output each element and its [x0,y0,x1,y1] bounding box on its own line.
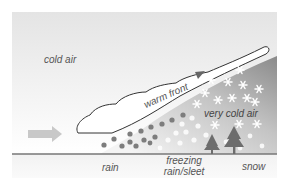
dot-icon [180,112,185,117]
freezing-label-line2: rain/sleet [161,166,207,177]
diagram-canvas [0,0,291,186]
freezing-label-line1: freezing [161,155,207,166]
dot-icon [133,143,138,148]
dot-icon [169,117,174,122]
dot-icon [148,141,153,146]
dot-icon [101,142,106,147]
ground-band [12,154,277,178]
dot-icon [138,128,143,133]
warm-front-diagram: cold air warm front very cold air rain f… [0,0,291,186]
dot-icon [111,136,116,141]
snow-label: snow [242,161,265,172]
cold-air-label: cold air [44,54,76,65]
dot-icon [159,121,164,126]
dot-icon [141,137,146,142]
very-cold-air-label: very cold air [204,108,258,119]
rain-label: rain [102,162,119,173]
dot-icon [148,124,153,129]
freezing-rain-sleet-label: freezing rain/sleet [161,155,207,177]
dot-icon [119,143,124,148]
dot-icon [127,131,132,136]
dot-icon [152,134,157,139]
dot-icon [127,139,132,144]
